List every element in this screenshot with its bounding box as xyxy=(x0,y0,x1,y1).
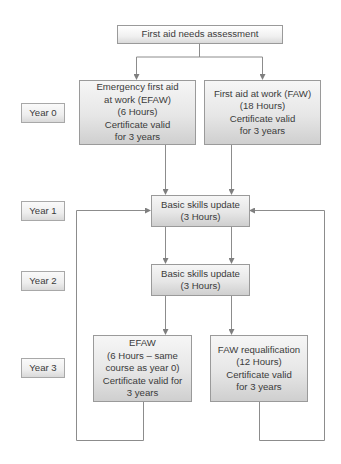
node-text: FAW requalification xyxy=(218,344,300,356)
node-text: Certificate valid xyxy=(226,369,292,381)
connector-assessment-to-faw xyxy=(200,57,263,79)
node-text: Emergency first aid xyxy=(96,81,178,93)
connector-efaw3-loop-back xyxy=(77,211,151,441)
year-3-label: Year 3 xyxy=(21,358,65,378)
node-text: at work (EFAW) xyxy=(104,94,171,106)
node-text: (6 Hours – same xyxy=(107,350,178,362)
node-text: Basic skills update xyxy=(161,199,240,211)
node-text: Certificate valid xyxy=(230,113,296,125)
node-text: (18 Hours) xyxy=(240,100,285,112)
node-text: (12 Hours) xyxy=(236,356,281,368)
node-efaw-year3: EFAW (6 Hours – same course as year 0) C… xyxy=(93,335,192,402)
node-text: First aid needs assessment xyxy=(142,28,259,40)
node-efaw-year0: Emergency first aid at work (EFAW) (6 Ho… xyxy=(79,80,196,145)
node-text: (3 Hours) xyxy=(181,280,221,292)
node-basic-skills-update-year2: Basic skills update (3 Hours) xyxy=(151,264,250,296)
node-faw-year0: First aid at work (FAW) (18 Hours) Certi… xyxy=(204,80,321,145)
node-text: 3 years xyxy=(127,387,158,399)
year-1-label: Year 1 xyxy=(21,201,65,221)
node-text: for 3 years xyxy=(115,131,160,143)
connector-faw-requal-loop-back xyxy=(250,211,325,441)
node-text: First aid at work (FAW) xyxy=(214,88,311,100)
node-text: EFAW xyxy=(129,337,156,349)
node-text: for 3 years xyxy=(236,381,281,393)
node-text: course as year 0) xyxy=(105,362,179,374)
node-text: (6 Hours) xyxy=(118,106,158,118)
year-2-label: Year 2 xyxy=(21,271,65,291)
node-text: (3 Hours) xyxy=(181,211,221,223)
node-text: Certificate valid xyxy=(105,119,171,131)
first-aid-training-flowchart: Year 0 Year 1 Year 2 Year 3 First aid ne… xyxy=(0,0,341,464)
node-text: Basic skills update xyxy=(161,268,240,280)
node-basic-skills-update-year1: Basic skills update (3 Hours) xyxy=(151,195,250,227)
year-0-label: Year 0 xyxy=(21,103,65,123)
node-text: Certificate valid for xyxy=(103,375,182,387)
connector-assessment-to-efaw xyxy=(137,57,200,79)
node-faw-requalification-year3: FAW requalification (12 Hours) Certifica… xyxy=(210,335,308,402)
node-text: for 3 years xyxy=(240,125,285,137)
node-first-aid-needs-assessment: First aid needs assessment xyxy=(117,25,283,44)
